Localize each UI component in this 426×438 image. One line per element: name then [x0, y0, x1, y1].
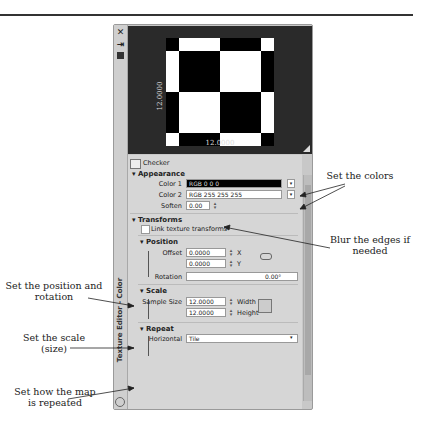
annotation-arrows: [0, 0, 426, 438]
